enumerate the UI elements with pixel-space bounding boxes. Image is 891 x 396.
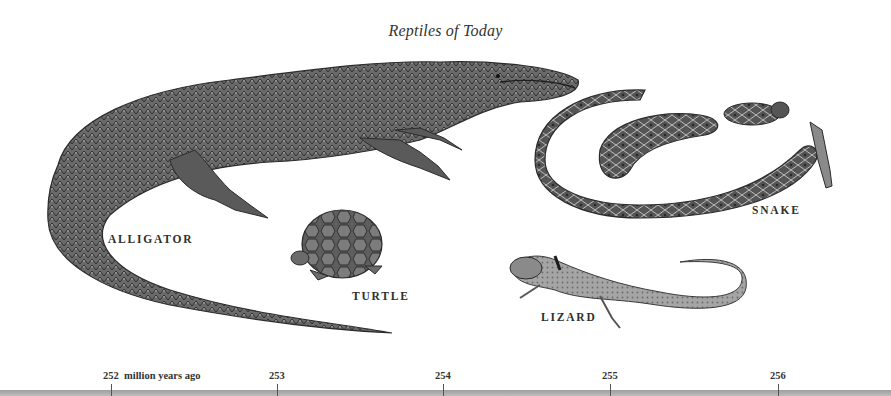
animal-label-alligator: ALLIGATOR (108, 233, 193, 245)
timeline-bar (0, 390, 891, 396)
timeline-tick-252 (111, 384, 112, 396)
timeline-tick-254 (443, 384, 444, 396)
animal-label-snake: SNAKE (752, 204, 801, 216)
tick-value: 252 (103, 370, 119, 381)
timeline-tick-255 (610, 384, 611, 396)
timeline-tick-253 (277, 384, 278, 396)
timeline-label-252: 252 million years ago (103, 370, 200, 381)
animal-label-turtle: TURTLE (352, 290, 410, 302)
timeline-label-254: 254 (435, 370, 451, 381)
reptile-illustrations (0, 0, 891, 396)
timeline-label-256: 256 (770, 370, 786, 381)
turtle-illustration (291, 210, 382, 280)
animal-label-lizard: LIZARD (541, 311, 597, 323)
alligator-illustration (48, 62, 579, 333)
timeline-label-255: 255 (602, 370, 618, 381)
timeline-unit-label: million years ago (124, 370, 200, 381)
timeline-tick-256 (778, 384, 779, 396)
timeline-label-253: 253 (269, 370, 285, 381)
snake-illustration (535, 90, 832, 218)
